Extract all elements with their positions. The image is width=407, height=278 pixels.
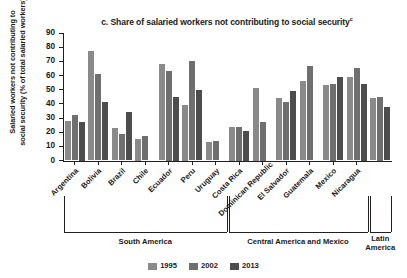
legend-item-1995[interactable]: 1995 [148, 262, 177, 270]
region-bracket-base [370, 232, 392, 233]
chart-title-text: c. Share of salaried workers not contrib… [101, 17, 350, 27]
bar-brazil-2002 [119, 134, 125, 161]
y-axis-title-line-1: Salaried workers not contributing to [8, 0, 18, 146]
y-axis-tick [59, 118, 63, 119]
region-bracket-edge [370, 196, 371, 232]
bar-mexico-2013 [337, 77, 343, 161]
bar-bolivia-2002 [95, 74, 101, 160]
y-axis-tick [59, 89, 63, 90]
region-bracket-edge [64, 196, 65, 232]
bar-guatemala-1995 [300, 81, 306, 160]
region-label-line-1: Latin [350, 234, 407, 243]
bar-dominican-republic-1995 [253, 88, 259, 160]
x-axis-tick [239, 162, 240, 165]
x-axis-tick [74, 162, 75, 165]
bar-brazil-2013 [126, 112, 132, 160]
bar-mexico-1995 [323, 85, 329, 160]
bar-chile-2002 [142, 136, 148, 160]
legend-label-2002: 2002 [201, 262, 218, 270]
legend-label-2013: 2013 [242, 262, 259, 270]
bar-uruguay-1995 [206, 142, 212, 160]
bar-guatemala-2002 [307, 66, 313, 161]
bar-el-salvador-2013 [290, 91, 296, 160]
bar-bolivia-1995 [88, 51, 94, 160]
bar-bolivia-2013 [102, 102, 108, 160]
bar-costa-rica-1995 [229, 127, 235, 161]
x-axis-line [63, 161, 392, 162]
x-axis-tick [333, 162, 334, 165]
legend-swatch-2002 [189, 263, 198, 270]
region-label-line-2: America [350, 243, 407, 252]
bar-mexico-2002 [330, 84, 336, 161]
region-bracket-base [64, 232, 227, 233]
x-axis-tick [286, 162, 287, 165]
region-bracket-base [229, 232, 368, 233]
x-axis-tick [356, 162, 357, 165]
region-bracket-edge [227, 196, 228, 232]
y-axis-tick-label: 40 [37, 100, 55, 108]
bar-peru-2013 [196, 90, 202, 161]
y-axis-tick-label: 80 [37, 43, 55, 51]
bar-ecuador-1995 [159, 64, 165, 160]
x-axis-tick [262, 162, 263, 165]
bar-brazil-1995 [112, 128, 118, 161]
bar-latin-america-2002 [377, 97, 383, 161]
y-axis-tick [59, 75, 63, 76]
y-axis-tick-label: 70 [37, 57, 55, 65]
region-label: LatinAmerica [350, 234, 407, 252]
x-axis-tick [215, 162, 216, 165]
y-axis-tick-label: 10 [37, 142, 55, 150]
bar-peru-1995 [182, 105, 188, 160]
y-axis-tick [59, 103, 63, 104]
bar-argentina-1995 [65, 121, 71, 161]
bar-nicaragua-2013 [361, 84, 367, 161]
y-axis-tick [59, 132, 63, 133]
region-bracket-edge [229, 196, 230, 232]
legend-item-2002[interactable]: 2002 [189, 262, 218, 270]
bar-uruguay-2002 [213, 141, 219, 161]
y-axis-tick [59, 61, 63, 62]
legend-swatch-2013 [230, 263, 239, 270]
chart-title: c. Share of salaried workers not contrib… [62, 14, 392, 27]
chart-container: c. Share of salaried workers not contrib… [0, 0, 407, 278]
region-bracket-edge [368, 196, 369, 232]
y-axis-tick-label: 50 [37, 86, 55, 94]
bar-ecuador-2002 [166, 71, 172, 160]
legend-swatch-1995 [148, 263, 157, 270]
x-axis-tick [168, 162, 169, 165]
legend-label-1995: 1995 [160, 262, 177, 270]
y-axis-tick [59, 146, 63, 147]
y-axis-tick [59, 33, 63, 34]
x-axis-tick [309, 162, 310, 165]
bar-dominican-republic-2002 [260, 122, 266, 160]
legend-item-2013[interactable]: 2013 [230, 262, 259, 270]
bar-latin-america-1995 [370, 98, 376, 160]
bar-latin-america-2013 [384, 107, 390, 161]
bar-chile-1995 [135, 139, 141, 160]
region-bracket-edge [391, 196, 392, 232]
y-axis-title-line-2: social security (% of total salaried wor… [18, 0, 28, 146]
bar-el-salvador-1995 [276, 98, 282, 160]
y-axis-tick [59, 160, 63, 161]
bar-costa-rica-2013 [243, 131, 249, 161]
x-axis-tick [145, 162, 146, 165]
bar-peru-2002 [189, 61, 195, 160]
y-axis-tick-label: 30 [37, 114, 55, 122]
bar-el-salvador-2002 [283, 102, 289, 160]
x-axis-tick [192, 162, 193, 165]
bar-nicaragua-2002 [354, 68, 360, 160]
bar-argentina-2002 [72, 115, 78, 160]
bar-costa-rica-2002 [236, 127, 242, 161]
bar-nicaragua-1995 [347, 77, 353, 161]
chart-legend: 199520022013 [0, 262, 407, 270]
y-axis-tick-label: 0 [37, 157, 55, 165]
y-axis-tick-label: 90 [37, 29, 55, 37]
y-axis-tick-label: 60 [37, 72, 55, 80]
chart-title-superscript: c [350, 16, 353, 22]
x-axis-tick [121, 162, 122, 165]
bar-ecuador-2013 [173, 97, 179, 161]
x-axis-tick [98, 162, 99, 165]
bar-argentina-2013 [79, 122, 85, 160]
y-axis-tick [59, 47, 63, 48]
y-axis-tick-label: 20 [37, 128, 55, 136]
